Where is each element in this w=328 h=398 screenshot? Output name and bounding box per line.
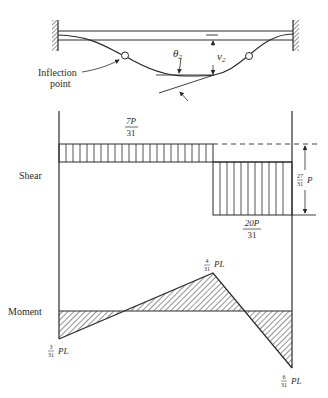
shear-negative-block — [213, 162, 292, 215]
moment-peak-numerator: 4 — [206, 258, 209, 264]
inflection-point-right-marker — [246, 53, 253, 60]
jump-suffix: P — [306, 175, 313, 185]
inflection-point-label-line1: Inflection — [38, 67, 77, 78]
shear-diagram: Shear 7P 31 20P 31 27 31 P — [19, 116, 318, 240]
moment-positive-area — [124, 273, 245, 311]
v2-label: v2 — [217, 50, 226, 64]
jump-denominator: 31 — [297, 181, 303, 187]
moment-right-suffix: PL — [290, 376, 302, 386]
sloped-tangent — [159, 75, 214, 93]
moment-peak-denominator: 31 — [204, 266, 210, 272]
moment-left-numerator: 3 — [50, 344, 53, 350]
beam-sketch: θ2 v2 Inflection point — [38, 20, 299, 101]
diagram-svg: θ2 v2 Inflection point — [0, 0, 328, 398]
moment-diagram: Moment 3 31 PL 4 31 PL 6 31 PL — [8, 258, 302, 388]
moment-peak-suffix: PL — [213, 259, 225, 269]
moment-right-denominator: 31 — [281, 382, 287, 388]
tangent-arrow — [180, 92, 188, 101]
theta-label: θ2 — [173, 47, 182, 61]
shear-right-value-denominator: 31 — [248, 230, 257, 240]
shear-negative-hatch — [220, 162, 283, 215]
inflection-point-left-marker — [122, 52, 129, 59]
right-wall-support — [293, 20, 299, 51]
moment-left-suffix: PL — [57, 346, 69, 356]
left-wall-support — [52, 20, 58, 51]
moment-left-denominator: 31 — [48, 352, 54, 358]
inflection-point-label-line2: point — [50, 78, 71, 89]
inflection-label-arrow — [82, 60, 119, 72]
shear-left-value-denominator: 31 — [127, 128, 136, 138]
moment-right-numerator: 6 — [283, 374, 286, 380]
shear-left-value-numerator: 7P — [126, 116, 137, 126]
shear-right-value-numerator: 20P — [245, 218, 260, 228]
shear-title: Shear — [19, 170, 42, 181]
beam-diagram-figure: θ2 v2 Inflection point — [0, 0, 328, 398]
jump-numerator: 27 — [297, 173, 303, 179]
moment-title: Moment — [8, 306, 42, 317]
shear-positive-hatch — [66, 144, 206, 162]
